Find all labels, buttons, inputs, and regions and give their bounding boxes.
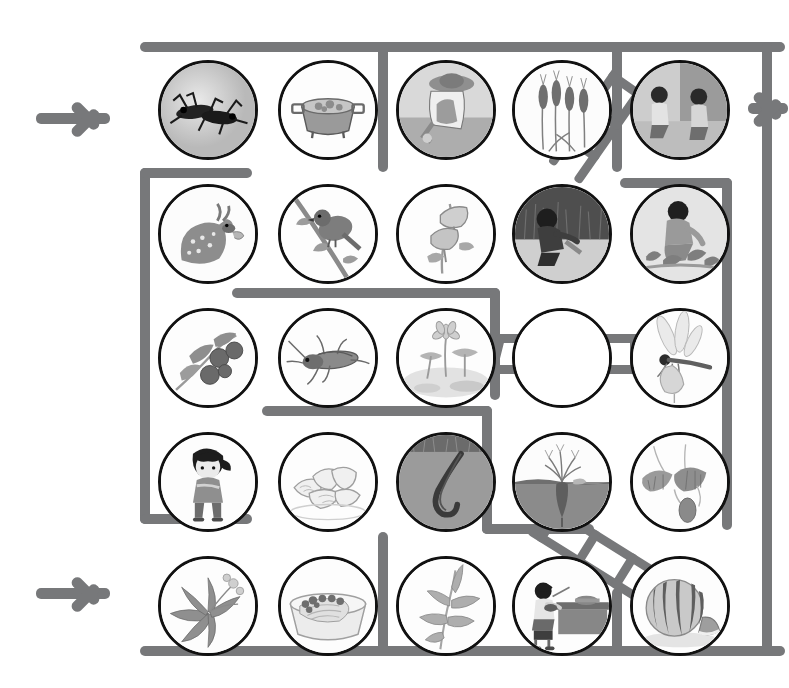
leafy-herb-illustration [161,559,255,653]
empty-circle [515,311,609,405]
lotus-pond-illustration [399,311,493,405]
wall-left-vertical [140,168,150,524]
maze-canvas [0,0,789,688]
cell-child-eating-at-table [512,556,612,656]
dragonfly-illustration [633,311,727,405]
cell-child-digging-grass [512,184,612,284]
wall-outer-top [140,42,785,52]
cell-lotus-pond [396,308,496,408]
radish-illustration [515,435,609,529]
cell-earthworm-soil [396,432,496,532]
two-children-illustration [633,63,727,157]
cell-berries-branch [158,308,258,408]
wall-v-col4-bottom [612,588,622,652]
cell-dragonfly [630,308,730,408]
wall-v-col2-bottom [378,532,388,652]
cell-bamboo-leaves [396,556,496,656]
morning-glory-illustration [399,187,493,281]
wheat-ears-illustration [515,63,609,157]
girl-standing-illustration [161,435,255,529]
watermelon-illustration [633,559,727,653]
farmer-harvesting-illustration [399,63,493,157]
cell-spotted-deer [158,184,258,284]
earthworm-soil-illustration [399,435,493,529]
cell-leafy-herb-plant [158,556,258,656]
cell-dumplings [278,432,378,532]
dumplings-illustration [281,435,375,529]
cell-child-picking-plants [630,184,730,284]
cell-cricket [278,308,378,408]
cell-empty-no-picture [512,308,612,408]
cell-crickets [158,60,258,160]
wall-left-top-stub [140,168,252,178]
child-digging-illustration [515,187,609,281]
entry-arrow-bottom-left [36,565,132,621]
entry-arrow-top-left [36,90,132,146]
wall-v-col2-top [378,47,388,172]
cricket-illustration [281,311,375,405]
cell-radish-in-ground [512,432,612,532]
cell-morning-glory [396,184,496,284]
cell-bird-on-branch [278,184,378,284]
cell-farmer-harvesting [396,60,496,160]
bamboo-leaves-illustration [399,559,493,653]
cell-girl-standing [158,432,258,532]
cell-bowl-of-cabbage [278,556,378,656]
cell-wheat-ears [512,60,612,160]
cell-pot-of-stew [278,60,378,160]
cell-watermelon [630,556,730,656]
hanging-fruit-illustration [633,435,727,529]
child-eating-illustration [515,559,609,653]
pot-of-stew-illustration [281,63,375,157]
crickets-illustration [161,63,255,157]
child-picking-illustration [633,187,727,281]
spotted-deer-illustration [161,187,255,281]
berries-branch-illustration [161,311,255,405]
cell-two-children-crouching [630,60,730,160]
bowl-of-cabbage-illustration [281,559,375,653]
bird-on-branch-illustration [281,187,375,281]
cell-hanging-fruit [630,432,730,532]
wall-h-row3-left [262,406,492,416]
wall-h-row2-mid [232,288,500,298]
wall-outer-right [762,42,772,656]
